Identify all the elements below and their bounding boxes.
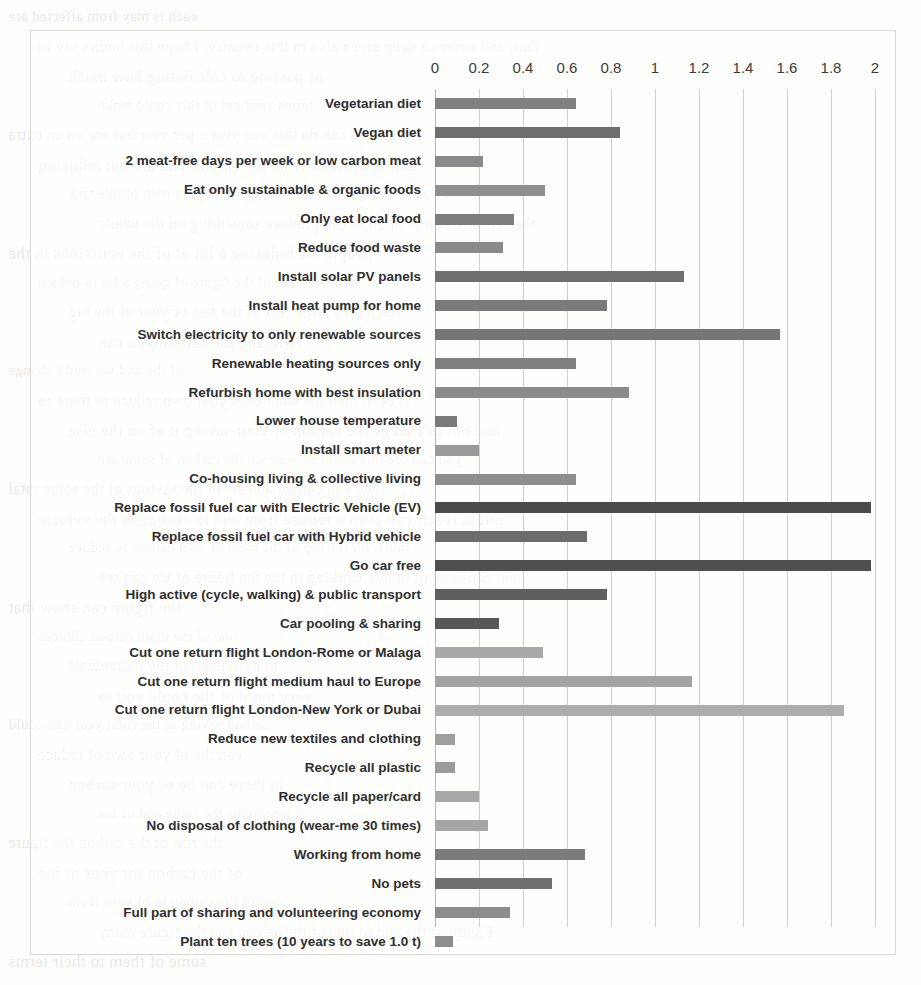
bar[interactable] (435, 936, 453, 947)
bar-row[interactable] (435, 349, 875, 378)
y-category-label-row: High active (cycle, walking) & public tr… (31, 580, 429, 609)
bar[interactable] (435, 791, 479, 802)
bar-row[interactable] (435, 233, 875, 262)
bar[interactable] (435, 676, 692, 687)
bar[interactable] (435, 647, 543, 658)
bar[interactable] (435, 445, 479, 456)
bar[interactable] (435, 387, 629, 398)
y-category-label: Only eat local food (300, 212, 421, 226)
bar[interactable] (435, 271, 684, 282)
y-category-label-row: Lower house temperature (31, 407, 429, 436)
bar-row[interactable] (435, 176, 875, 205)
bar-row[interactable] (435, 609, 875, 638)
bar[interactable] (435, 849, 585, 860)
bar-row[interactable] (435, 927, 875, 956)
y-category-label-row: Cut one return flight medium haul to Eur… (31, 667, 429, 696)
bar-row[interactable] (435, 898, 875, 927)
y-category-label-row: Install solar PV panels (31, 262, 429, 291)
bar[interactable] (435, 820, 488, 831)
bar[interactable] (435, 705, 844, 716)
y-category-label: Plant ten trees (10 years to save 1.0 t) (180, 935, 421, 949)
bar[interactable] (435, 762, 455, 773)
bar-row[interactable] (435, 696, 875, 725)
x-tick-label: 0 (431, 59, 439, 76)
y-category-label: Lower house temperature (256, 414, 421, 428)
bar-row[interactable] (435, 262, 875, 291)
bar-row[interactable] (435, 378, 875, 407)
y-category-label-row: Renewable heating sources only (31, 349, 429, 378)
y-category-label-row: Cut one return flight London-Rome or Mal… (31, 638, 429, 667)
y-category-label: Cut one return flight London-New York or… (115, 703, 421, 717)
bar-row[interactable] (435, 840, 875, 869)
y-category-label-row: Reduce food waste (31, 233, 429, 262)
bar-row[interactable] (435, 205, 875, 234)
bar-row[interactable] (435, 551, 875, 580)
y-category-label-row: Replace fossil fuel car with Electric Ve… (31, 493, 429, 522)
bar[interactable] (435, 589, 607, 600)
bar[interactable] (435, 618, 499, 629)
y-category-label: Recycle all plastic (305, 761, 421, 775)
bar-row[interactable] (435, 320, 875, 349)
bar[interactable] (435, 156, 483, 167)
bar[interactable] (435, 185, 545, 196)
bar[interactable] (435, 560, 871, 571)
x-tick-label: 1.8 (821, 59, 842, 76)
bar-row[interactable] (435, 667, 875, 696)
y-category-label-row: Co-housing living & collective living (31, 465, 429, 494)
bar-row[interactable] (435, 753, 875, 782)
y-category-label: Install smart meter (301, 443, 421, 457)
x-tick-label: 2 (871, 59, 879, 76)
x-tick-label: 1 (651, 59, 659, 76)
y-category-label-row: Plant ten trees (10 years to save 1.0 t) (31, 927, 429, 956)
bar-row[interactable] (435, 782, 875, 811)
x-tick-label: 1.6 (777, 59, 798, 76)
bar-row[interactable] (435, 493, 875, 522)
x-tick-label: 1.4 (733, 59, 754, 76)
y-category-label: Working from home (294, 848, 421, 862)
y-category-label: Vegetarian diet (325, 97, 421, 111)
y-category-label-row: Switch electricity to only renewable sou… (31, 320, 429, 349)
x-tick-label: 1.2 (689, 59, 710, 76)
bar-row[interactable] (435, 522, 875, 551)
y-category-label-row: Recycle all paper/card (31, 782, 429, 811)
bar-row[interactable] (435, 407, 875, 436)
y-category-label: Refurbish home with best insulation (188, 386, 421, 400)
y-category-label: Reduce new textiles and clothing (208, 732, 421, 746)
y-category-label: Co-housing living & collective living (189, 472, 421, 486)
bar-row[interactable] (435, 147, 875, 176)
y-category-label: Cut one return flight medium haul to Eur… (138, 675, 422, 689)
y-category-label-row: 2 meat-free days per week or low carbon … (31, 147, 429, 176)
bar[interactable] (435, 300, 607, 311)
chart-figure: 00.20.40.60.811.21.41.61.82 Vegetarian d… (30, 30, 896, 955)
y-category-label: Recycle all paper/card (278, 790, 421, 804)
bar-row[interactable] (435, 465, 875, 494)
bar[interactable] (435, 531, 587, 542)
bar-row[interactable] (435, 580, 875, 609)
bar-row[interactable] (435, 725, 875, 754)
y-category-label-row: Recycle all plastic (31, 753, 429, 782)
y-category-label-row: Install smart meter (31, 436, 429, 465)
bar[interactable] (435, 242, 503, 253)
bar-row[interactable] (435, 89, 875, 118)
bar[interactable] (435, 358, 576, 369)
bleed-text-line: each is may from affected are (8, 8, 197, 25)
bar[interactable] (435, 416, 457, 427)
y-category-label: Reduce food waste (298, 241, 421, 255)
bar-row[interactable] (435, 291, 875, 320)
bar[interactable] (435, 502, 871, 513)
bar-row[interactable] (435, 869, 875, 898)
bar[interactable] (435, 907, 510, 918)
bar-row[interactable] (435, 638, 875, 667)
bar-row[interactable] (435, 436, 875, 465)
bar[interactable] (435, 98, 576, 109)
bar[interactable] (435, 734, 455, 745)
y-category-label: Switch electricity to only renewable sou… (137, 328, 421, 342)
bar-row[interactable] (435, 118, 875, 147)
bar[interactable] (435, 329, 780, 340)
bar[interactable] (435, 127, 620, 138)
bar[interactable] (435, 878, 552, 889)
bar[interactable] (435, 474, 576, 485)
bar[interactable] (435, 214, 514, 225)
y-category-label: Vegan diet (353, 126, 421, 140)
bar-row[interactable] (435, 811, 875, 840)
